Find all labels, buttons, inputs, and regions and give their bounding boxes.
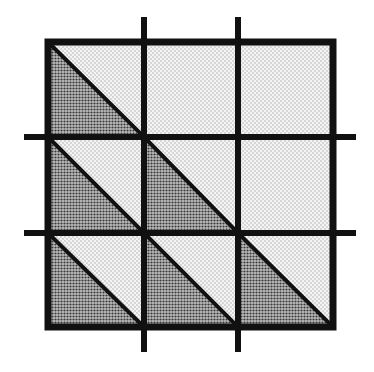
grid-triangle-diagram	[0, 0, 374, 372]
